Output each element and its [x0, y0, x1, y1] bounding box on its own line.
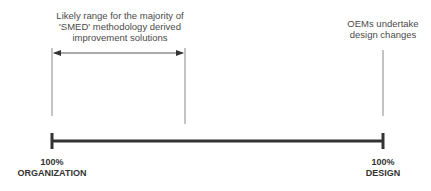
smed-range-label: Likely range for the majority of 'SMED' … — [40, 10, 200, 43]
left-end-label: 100% ORGANIZATION — [2, 157, 102, 179]
right-end-label: 100% DESIGN — [343, 157, 423, 179]
oem-label: OEMs undertake design changes — [333, 18, 431, 40]
